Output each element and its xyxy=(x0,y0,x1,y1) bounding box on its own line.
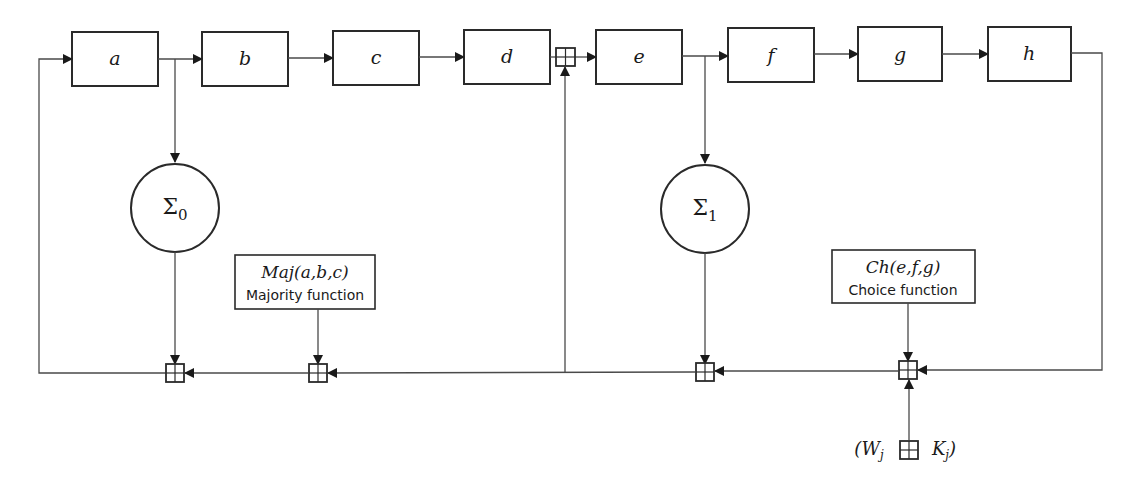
register-f-label: f xyxy=(767,44,774,66)
adder-choice xyxy=(899,361,917,379)
choice-description: Choice function xyxy=(848,282,957,298)
adder-wk xyxy=(900,441,918,459)
k-j-label: Kj) xyxy=(932,438,956,463)
adder-d-e xyxy=(556,48,575,66)
sigma1-label: Σ1 xyxy=(692,195,717,224)
register-c-label: c xyxy=(371,46,382,68)
register-g-label: g xyxy=(894,43,906,65)
bus-middle-segment xyxy=(328,372,695,373)
majority-description: Majority function xyxy=(246,287,364,303)
majority-formula: Maj(a,b,c) xyxy=(261,262,348,282)
w-j-label: (Wj xyxy=(854,438,883,463)
h-feedback-wire xyxy=(918,53,1102,370)
adder-sigma1 xyxy=(696,363,714,381)
adder-sigma0 xyxy=(166,364,184,382)
choice-formula: Ch(e,f,g) xyxy=(866,257,941,277)
sha2-round-diagram xyxy=(0,0,1132,483)
register-e-label: e xyxy=(633,45,644,67)
register-h-label: h xyxy=(1023,42,1035,64)
register-d-label: d xyxy=(501,45,513,67)
adder-majority xyxy=(309,364,327,382)
sigma0-label: Σ0 xyxy=(162,194,187,223)
register-a-label: a xyxy=(109,47,120,69)
register-b-label: b xyxy=(239,47,251,69)
